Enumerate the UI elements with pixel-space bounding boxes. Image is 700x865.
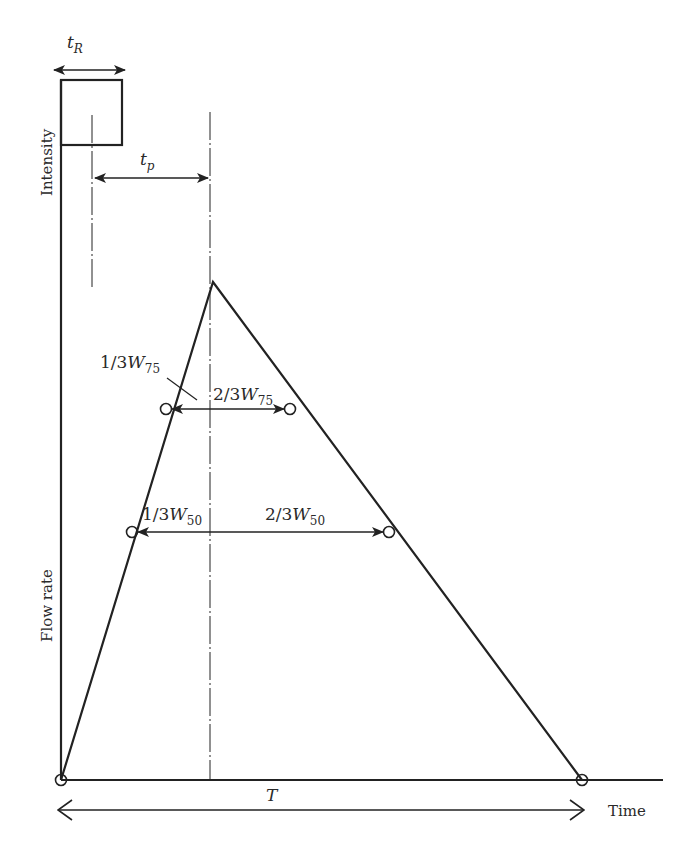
w50-left-label: 1/3W50 (142, 504, 202, 528)
w75-right-label: 2/3W75 (213, 384, 273, 408)
w75-right-marker (285, 404, 296, 415)
T-label: T (266, 785, 279, 805)
tR-label: tR (67, 32, 83, 56)
intensity-axis-label: Intensity (38, 128, 56, 196)
w50-right-marker (384, 527, 395, 538)
w75-left-marker (161, 404, 172, 415)
tp-label: tp (140, 149, 155, 173)
time-axis-label: Time (608, 802, 646, 820)
w50-right-label: 2/3W50 (265, 504, 325, 528)
flow-rate-axis-label: Flow rate (38, 569, 56, 642)
hydrograph-diagram: tR tp 1/3W75 2/3W75 1/3W50 2/3W50 T Time… (0, 0, 700, 865)
w75-left-label: 1/3W75 (100, 352, 160, 376)
